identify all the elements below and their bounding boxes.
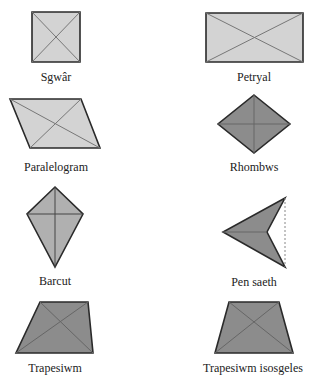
- label-isosceles-trapezium: Trapesiwm isosgeles: [203, 361, 303, 375]
- arrowhead-shape: [223, 198, 285, 267]
- kite-shape: [27, 187, 83, 267]
- label-rectangle: Petryal: [237, 70, 271, 84]
- quadrilaterals-diagram: [0, 0, 325, 379]
- square-shape: [32, 12, 80, 62]
- label-kite: Barcut: [39, 274, 71, 288]
- label-trapezium: Trapesiwm: [28, 361, 82, 375]
- label-arrowhead: Pen saeth: [231, 275, 277, 289]
- label-square: Sgwâr: [41, 70, 72, 84]
- label-parallelogram: Paralelogram: [24, 160, 88, 174]
- trapezium-shape: [16, 302, 93, 353]
- parallelogram-shape: [10, 99, 100, 148]
- label-rhombus: Rhombws: [230, 160, 279, 174]
- isosceles-trapezium-shape: [215, 302, 293, 353]
- rhombus-shape: [218, 95, 290, 153]
- rectangle-shape: [206, 13, 303, 62]
